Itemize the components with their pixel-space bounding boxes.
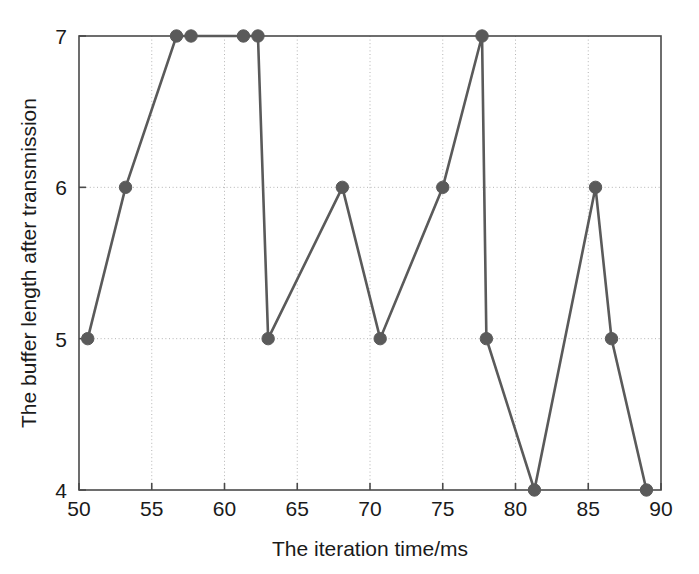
line-chart: 505560657075808590 4567 The iteration ti… <box>0 0 699 574</box>
x-axis-title: The iteration time/ms <box>272 537 468 560</box>
x-tick-label: 70 <box>358 497 381 520</box>
x-tick-label: 50 <box>67 497 90 520</box>
data-point-marker <box>476 30 488 42</box>
data-point-marker <box>437 181 449 193</box>
data-point-marker <box>262 332 274 344</box>
x-tick-label: 75 <box>431 497 454 520</box>
x-tick-label: 80 <box>504 497 527 520</box>
y-tick-label: 6 <box>55 176 67 199</box>
y-tick-label: 5 <box>55 328 67 351</box>
data-point-marker <box>528 484 540 496</box>
x-tick-label: 65 <box>286 497 309 520</box>
y-axis-title: The buffer length after transmission <box>17 98 40 428</box>
y-tick-label: 7 <box>55 25 67 48</box>
data-point-marker <box>605 332 617 344</box>
x-tick-label: 90 <box>649 497 672 520</box>
x-axis-tick-labels: 505560657075808590 <box>67 497 672 520</box>
data-point-marker <box>237 30 249 42</box>
x-tick-label: 55 <box>140 497 163 520</box>
data-point-marker <box>336 181 348 193</box>
data-point-marker <box>640 484 652 496</box>
data-point-marker <box>589 181 601 193</box>
data-point-marker <box>480 332 492 344</box>
chart-background <box>0 0 699 574</box>
x-tick-label: 85 <box>577 497 600 520</box>
data-point-marker <box>170 30 182 42</box>
data-point-marker <box>82 332 94 344</box>
y-tick-label: 4 <box>55 479 67 502</box>
data-point-marker <box>374 332 386 344</box>
data-point-marker <box>252 30 264 42</box>
data-point-marker <box>185 30 197 42</box>
data-point-marker <box>119 181 131 193</box>
x-tick-label: 60 <box>213 497 236 520</box>
chart-page: 505560657075808590 4567 The iteration ti… <box>0 0 699 574</box>
